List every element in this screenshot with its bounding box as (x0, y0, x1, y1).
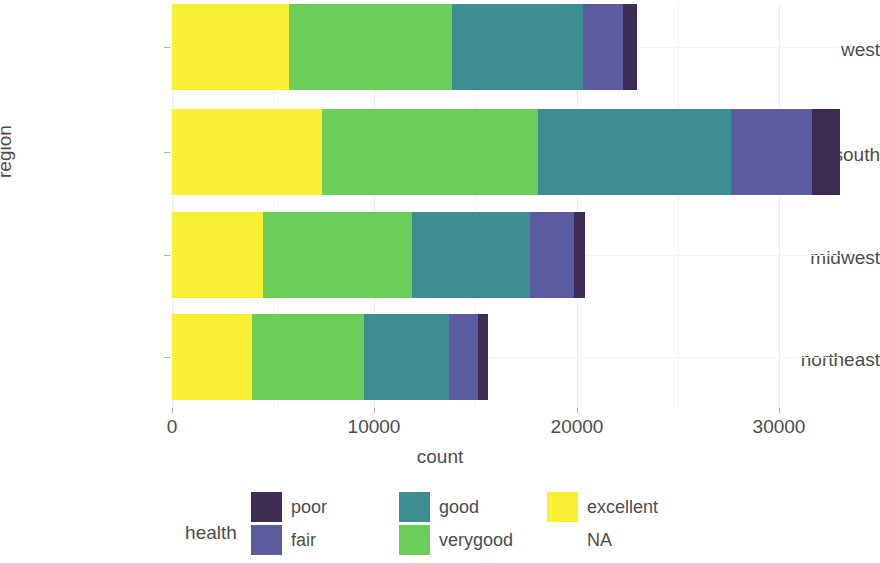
bar-segment-south-good (538, 109, 731, 195)
legend-swatch-verygood (399, 525, 430, 555)
bar-segment-west-fair (583, 4, 623, 90)
legend-item-verygood[interactable]: verygood (399, 525, 547, 555)
legend-label-fair: fair (291, 530, 316, 551)
bar-northeast (172, 314, 488, 400)
bar-segment-west-excellent (172, 4, 289, 90)
legend-swatch-NA (547, 525, 578, 555)
plot-area (172, 4, 840, 408)
bar-segment-south-poor (812, 109, 839, 195)
x-tick-mark (172, 408, 173, 413)
bar-segment-northeast-excellent (172, 314, 252, 400)
bar-segment-south-verygood (322, 109, 538, 195)
legend-item-poor[interactable]: poor (251, 492, 399, 522)
bar-segment-northeast-fair (449, 314, 478, 400)
legend-label-poor: poor (291, 497, 327, 518)
bar-segment-south-excellent (172, 109, 322, 195)
x-tick-label-30000: 30000 (753, 416, 806, 438)
y-tick-mark (164, 255, 170, 256)
bar-segment-northeast-verygood (252, 314, 364, 400)
bar-south (172, 109, 840, 195)
legend-entries: poorfairgoodverygoodexcellentNA (251, 492, 695, 555)
legend-item-excellent[interactable]: excellent (547, 492, 695, 522)
x-tick-mark (779, 408, 780, 413)
x-tick-mark (577, 408, 578, 413)
y-tick-mark (164, 152, 170, 153)
x-tick-label-20000: 20000 (551, 416, 604, 438)
x-tick-label-10000: 10000 (348, 416, 401, 438)
bar-segment-midwest-excellent (172, 212, 263, 298)
bar-segment-northeast-poor (478, 314, 487, 400)
y-axis-title: region (0, 125, 16, 178)
y-tick-mark (164, 357, 170, 358)
legend-label-verygood: verygood (439, 530, 513, 551)
legend-item-fair[interactable]: fair (251, 525, 399, 555)
bar-segment-midwest-fair (530, 212, 573, 298)
legend-item-NA[interactable]: NA (547, 525, 695, 555)
gridline-x-30000 (779, 4, 780, 408)
legend-swatch-good (399, 492, 430, 522)
x-tick-label-0: 0 (167, 416, 178, 438)
bar-segment-west-verygood (289, 4, 452, 90)
x-axis-title: count (0, 446, 880, 468)
bar-segment-west-good (452, 4, 582, 90)
legend-label-good: good (439, 497, 479, 518)
legend: health poorfairgoodverygoodexcellentNA (0, 492, 880, 563)
bar-segment-northeast-good (364, 314, 449, 400)
bar-west (172, 4, 637, 90)
legend-swatch-fair (251, 525, 282, 555)
bar-segment-west-poor (623, 4, 637, 90)
legend-label-excellent: excellent (587, 497, 658, 518)
bar-segment-midwest-verygood (263, 212, 412, 298)
legend-item-good[interactable]: good (399, 492, 547, 522)
y-tick-mark (164, 47, 170, 48)
bar-segment-midwest-good (412, 212, 530, 298)
legend-label-NA: NA (587, 530, 612, 551)
gridline-x-minor (678, 4, 679, 408)
bar-midwest (172, 212, 585, 298)
legend-title: health (185, 504, 237, 544)
legend-swatch-poor (251, 492, 282, 522)
bar-segment-south-fair (731, 109, 812, 195)
bar-segment-midwest-poor (574, 212, 585, 298)
legend-swatch-excellent (547, 492, 578, 522)
x-tick-mark (374, 408, 375, 413)
stacked-bar-chart: region west south midwest northeast 0 10… (0, 0, 880, 563)
